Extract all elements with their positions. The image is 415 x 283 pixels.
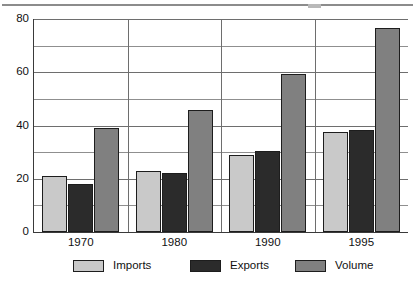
x-axis-tick-labels: 1970198019901995 [34, 19, 408, 232]
legend-item-volume: Volume [295, 256, 373, 276]
legend-item-imports: Imports [73, 256, 151, 276]
y-axis-tick-label: 80 [16, 13, 29, 25]
legend-label-volume: Volume [335, 260, 373, 272]
legend-swatch-volume [295, 260, 326, 272]
legend-swatch-imports [73, 260, 104, 272]
plot-wrapper: 020406080 1970198019901995 [0, 10, 415, 238]
y-axis-tick-label: 0 [23, 226, 29, 238]
page-top-rule-tick [308, 4, 321, 8]
x-axis-tick-label: 1995 [348, 237, 374, 249]
legend-label-imports: Imports [113, 260, 151, 272]
plot-area: 020406080 1970198019901995 [33, 19, 408, 233]
x-axis-tick-label: 1970 [68, 237, 94, 249]
x-axis-tick-label: 1990 [255, 237, 281, 249]
legend-label-exports: Exports [230, 260, 269, 272]
y-axis-tick-label: 20 [16, 173, 29, 185]
chart-legend: ImportsExportsVolume [33, 256, 408, 276]
y-axis-tick-label: 40 [16, 120, 29, 132]
y-axis-tick-label: 60 [16, 67, 29, 79]
x-axis-tick-label: 1980 [161, 237, 187, 249]
legend-item-exports: Exports [190, 256, 269, 276]
chart-figure: 020406080 1970198019901995 ImportsExport… [0, 0, 415, 283]
legend-swatch-exports [190, 260, 221, 272]
page-top-rule [2, 4, 413, 6]
